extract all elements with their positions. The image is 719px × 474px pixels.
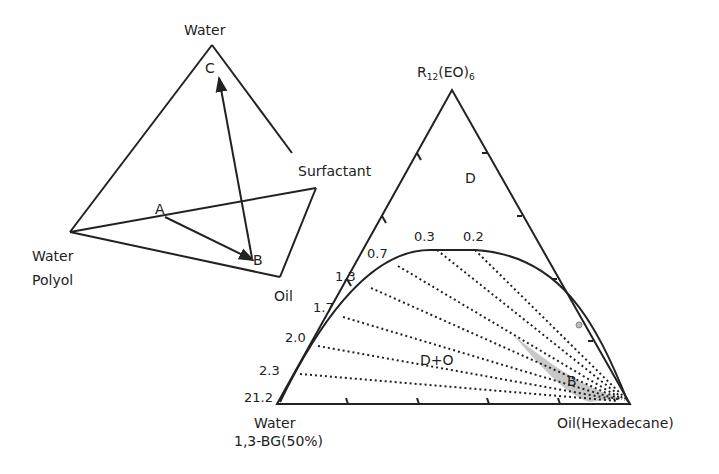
tie-line-label: 2.3 — [259, 363, 280, 379]
vertex-label-water-bottom: Water — [254, 415, 295, 431]
point-label-b: B — [253, 252, 263, 268]
data-point-marker — [576, 322, 582, 328]
region-label-d-plus-o: D+O — [420, 352, 454, 368]
tie-line-label: 0.3 — [414, 229, 435, 245]
point-label-c: C — [205, 60, 215, 76]
tie-line-label: 0.2 — [463, 229, 484, 245]
region-label-d: D — [465, 170, 476, 186]
tetrahedron — [70, 45, 316, 277]
apex-label-surfactant: R12(EO)6 — [417, 64, 475, 85]
vertex-label-polyol: Polyol — [32, 272, 73, 288]
vertex-label-bg: 1,3-BG(50%) — [234, 433, 323, 449]
diagram-canvas — [0, 0, 719, 474]
vertex-label-surfactant: Surfactant — [298, 163, 371, 179]
tie-line-label: 0.7 — [367, 246, 388, 262]
point-label-a: A — [155, 201, 165, 217]
tie-line-label: 1.3 — [335, 269, 356, 285]
tie-line-label: 1.7 — [313, 300, 334, 316]
vertex-label-oil: Oil — [274, 288, 293, 304]
vertex-label-hexadecane: Oil(Hexadecane) — [557, 415, 674, 431]
tie-line-label: 21.2 — [244, 390, 273, 406]
region-label-b: B — [567, 373, 577, 389]
vertex-label-water-top: Water — [184, 22, 225, 38]
vertex-label-water: Water — [32, 248, 73, 264]
tie-line-label: 2.0 — [285, 330, 306, 346]
